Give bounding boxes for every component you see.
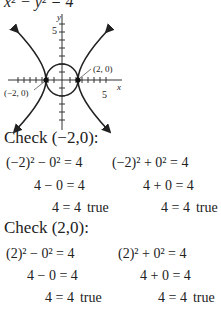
- point-left-label: (−2, 0): [4, 88, 29, 98]
- check2-heading: Check (2,0):: [4, 218, 89, 238]
- point-right-label: (2, 0): [93, 64, 113, 74]
- x-tick-label: 5: [102, 89, 107, 100]
- check1-right-line3: 4 = 4: [161, 200, 190, 215]
- check2-left-result: true: [80, 290, 102, 305]
- point-left: [43, 77, 48, 82]
- check2-right-line1: (2)² + 0² = 4: [118, 246, 187, 262]
- check1-left-result: true: [87, 200, 109, 215]
- check2-right-result: true: [193, 290, 215, 305]
- check2-right-line3: 4 = 4: [158, 290, 187, 305]
- x-axis-label: x: [117, 82, 121, 92]
- y-tick-label: 5: [52, 25, 57, 36]
- check2-left-line1: (2)² − 0² = 4: [6, 246, 75, 262]
- check2-left-line2: 4 − 0 = 4: [27, 268, 78, 284]
- check2-right-line2: 4 + 0 = 4: [140, 268, 191, 284]
- check1-left-line1: (−2)² − 0² = 4: [6, 155, 82, 171]
- point-right: [75, 77, 80, 82]
- check1-left-line2: 4 − 0 = 4: [34, 178, 85, 194]
- check2-left-line3: 4 = 4: [45, 290, 74, 305]
- check1-left-line3: 4 = 4: [52, 200, 81, 215]
- y-axis-label: y: [57, 12, 61, 22]
- check1-right-line1: (−2)² + 0² = 4: [112, 155, 188, 171]
- check1-right-line2: 4 + 0 = 4: [143, 178, 194, 194]
- check1-right-result: true: [196, 200, 218, 215]
- check1-heading: Check (−2,0):: [4, 128, 99, 148]
